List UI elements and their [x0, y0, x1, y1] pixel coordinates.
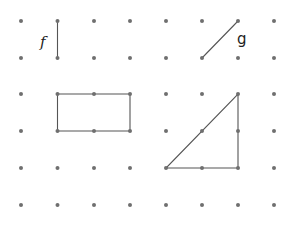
grid-dot	[272, 92, 276, 96]
grid-dot	[92, 203, 96, 207]
grid-dot	[272, 166, 276, 170]
grid-dot	[236, 203, 240, 207]
grid-dot	[19, 166, 23, 170]
grid-dot	[236, 129, 240, 133]
grid-dot	[236, 92, 240, 96]
grid-dot	[19, 19, 23, 23]
grid-dot	[56, 56, 60, 60]
grid-dot	[272, 19, 276, 23]
grid-dot	[56, 19, 60, 23]
segment-g	[202, 21, 238, 58]
dot-grid-diagram: f g	[0, 0, 297, 232]
grid-dot	[92, 56, 96, 60]
grid-dot	[272, 129, 276, 133]
label-g: g	[237, 30, 247, 48]
grid-dot	[200, 166, 204, 170]
grid-dot	[92, 129, 96, 133]
grid-dot	[272, 56, 276, 60]
grid-dot	[19, 56, 23, 60]
grid-dot	[56, 203, 60, 207]
grid-dot	[56, 129, 60, 133]
grid-dot	[128, 166, 132, 170]
grid-dot	[56, 166, 60, 170]
grid-dot	[92, 166, 96, 170]
grid-dot	[236, 56, 240, 60]
label-f: f	[39, 33, 48, 51]
grid-dot	[92, 19, 96, 23]
grid-dot	[19, 129, 23, 133]
grid-dot	[164, 19, 168, 23]
grid-dot	[128, 129, 132, 133]
grid-dot	[164, 166, 168, 170]
grid-dot	[164, 56, 168, 60]
grid-dot	[128, 56, 132, 60]
grid-dot	[92, 92, 96, 96]
grid-dot	[128, 203, 132, 207]
grid-dot	[128, 92, 132, 96]
grid-dot	[200, 129, 204, 133]
grid-dot	[19, 92, 23, 96]
grid-dot	[128, 19, 132, 23]
grid-dot	[200, 19, 204, 23]
grid-dot	[236, 19, 240, 23]
grid-dot	[19, 203, 23, 207]
grid-dot	[272, 203, 276, 207]
grid-dot	[164, 129, 168, 133]
grid-dot	[56, 92, 60, 96]
rectangle-shape	[58, 94, 131, 131]
grid-dot	[236, 166, 240, 170]
grid-dot	[200, 203, 204, 207]
shapes	[58, 21, 239, 168]
grid-dot	[200, 56, 204, 60]
grid-dot	[200, 92, 204, 96]
grid-dot	[164, 203, 168, 207]
grid-dot	[164, 92, 168, 96]
